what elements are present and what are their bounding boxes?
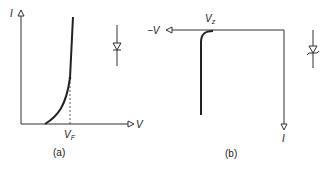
forward-iv-curve (45, 17, 73, 124)
x-axis-label-a: V (136, 119, 144, 130)
diode-characteristics-diagram: I V VF (a) −V Vz I (b) (0, 0, 327, 169)
vf-point (69, 77, 72, 80)
zener-iv-curve (201, 31, 213, 115)
y-axis-label-b: I (282, 133, 285, 144)
panel-b: −V Vz I (b) (147, 13, 319, 159)
x-axis-arrow-icon (128, 121, 134, 127)
i-arrow-icon (281, 124, 287, 130)
caption-a: (a) (53, 147, 65, 158)
panel-a: I V VF (a) (10, 8, 144, 158)
y-axis-label-a: I (10, 8, 13, 19)
neg-v-arrow-icon (166, 27, 172, 33)
y-axis-arrow-icon (18, 10, 24, 16)
diode-symbol-icon (113, 25, 121, 66)
vz-label: Vz (205, 13, 216, 25)
zener-diode-symbol-icon (307, 30, 319, 68)
caption-b: (b) (225, 148, 237, 159)
neg-v-label: −V (147, 25, 161, 36)
vf-label: VF (64, 129, 76, 141)
